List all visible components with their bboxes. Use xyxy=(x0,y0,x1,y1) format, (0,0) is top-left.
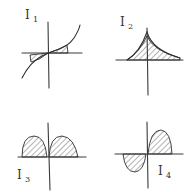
shaded-region-left xyxy=(22,136,47,157)
panel-i2-label: I xyxy=(120,15,125,29)
panel-i3-label: I xyxy=(17,168,22,182)
panel-i4-label: I xyxy=(158,164,163,178)
sketch-canvas: I 1 I 2 I 3 I 4 xyxy=(0,0,187,192)
shaded-region-positive xyxy=(148,130,172,154)
shaded-region-negative xyxy=(123,154,146,172)
panel-i1: I 1 xyxy=(22,8,82,88)
panel-i4-subscript: 4 xyxy=(166,171,171,180)
y-axis xyxy=(147,122,148,188)
shaded-region xyxy=(127,36,180,60)
shaded-region-right xyxy=(49,136,78,157)
panel-i2-subscript: 2 xyxy=(128,22,133,31)
panel-i3: I 3 xyxy=(17,123,86,190)
panel-i1-label: I xyxy=(25,8,30,22)
y-axis xyxy=(48,22,49,88)
panel-i3-subscript: 3 xyxy=(25,175,30,184)
panel-i1-subscript: 1 xyxy=(33,15,38,24)
function-curve xyxy=(22,25,80,78)
panel-i4: I 4 xyxy=(115,122,183,188)
panel-i2: I 2 xyxy=(116,15,183,95)
